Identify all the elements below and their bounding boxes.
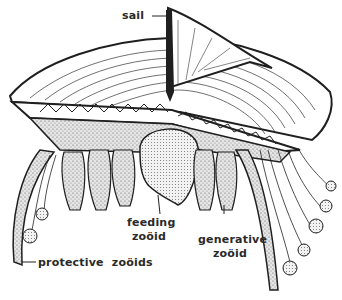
label-generative-zooid-line1: generative <box>198 233 267 246</box>
right-arm <box>236 150 278 290</box>
generative-zooids-right <box>194 150 237 210</box>
feeding-zooid <box>140 129 198 205</box>
label-feeding-zooid-line2: zoöid <box>132 230 166 243</box>
label-feeding-zooid-line1: feeding <box>127 216 175 229</box>
label-sail: sail <box>122 9 144 22</box>
generative-zooids-left <box>62 150 135 210</box>
protective-zooid-clusters-right <box>283 181 336 275</box>
velella-illustration <box>0 0 342 300</box>
feeding-leader-line <box>158 195 160 214</box>
label-generative-zooid-line2: zoöid <box>213 247 247 260</box>
label-protective-zooids: protective zoöids <box>38 256 153 269</box>
left-arm <box>13 150 54 265</box>
